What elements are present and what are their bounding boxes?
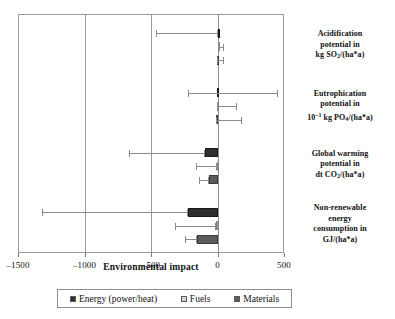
error-bar-1-0 [188, 93, 278, 94]
category-label-1: Eutrophicationpotential in10–1 kg PO4/(h… [288, 89, 392, 125]
x-tick-500 [284, 253, 285, 257]
x-tick-0 [218, 253, 219, 257]
bar-2-1 [217, 162, 219, 171]
error-bar-3-2 [185, 239, 197, 240]
error-bar-0-2 [217, 60, 224, 61]
error-bar-1-2 [216, 120, 242, 121]
legend-swatch-icon-0 [70, 296, 76, 302]
error-bar-3-1 [175, 226, 216, 227]
category-label-list: Acidificationpotential inkg SO2/(ha*a)Eu… [288, 14, 392, 253]
legend-swatch-icon-1 [181, 296, 187, 302]
bar-3-2 [197, 235, 218, 244]
bar-3-0 [188, 208, 219, 217]
gridline--500 [151, 15, 152, 252]
plot-area [18, 14, 284, 253]
category-label-2: Global warmingpotential indt CO2/(ha*a) [288, 149, 392, 182]
x-axis-title: Environmental impact [18, 262, 284, 272]
legend-swatch-icon-2 [234, 296, 240, 302]
x-tick--1500 [18, 253, 19, 257]
category-label-3: Non-renewableenergyconsumption inGJ/(ha*… [288, 203, 392, 245]
gridline--1000 [85, 15, 86, 252]
legend-item-2[interactable]: Materials [234, 294, 279, 304]
chart-legend: Energy (power/heat)FuelsMaterials [57, 289, 292, 308]
bar-3-1 [216, 221, 219, 230]
chart-container: –1500–1000–5000500 Environmental impact … [0, 0, 395, 319]
error-bar-2-0 [129, 153, 205, 154]
legend-item-0[interactable]: Energy (power/heat) [70, 294, 157, 304]
bar-2-2 [209, 175, 219, 184]
category-label-0: Acidificationpotential inkg SO2/(ha*a) [288, 29, 392, 62]
legend-label-2: Materials [243, 294, 279, 304]
error-bar-3-0 [42, 212, 188, 213]
legend-label-0: Energy (power/heat) [79, 294, 157, 304]
error-bar-0-0 [156, 33, 218, 34]
error-bar-2-1 [196, 166, 218, 167]
x-tick--1000 [85, 253, 86, 257]
bar-2-0 [205, 148, 218, 157]
bar-0-0 [218, 29, 220, 38]
x-tick--500 [151, 253, 152, 257]
legend-label-1: Fuels [190, 294, 211, 304]
error-bar-2-2 [199, 180, 208, 181]
legend-item-1[interactable]: Fuels [181, 294, 211, 304]
error-bar-1-1 [217, 106, 238, 107]
error-bar-0-1 [218, 47, 224, 48]
